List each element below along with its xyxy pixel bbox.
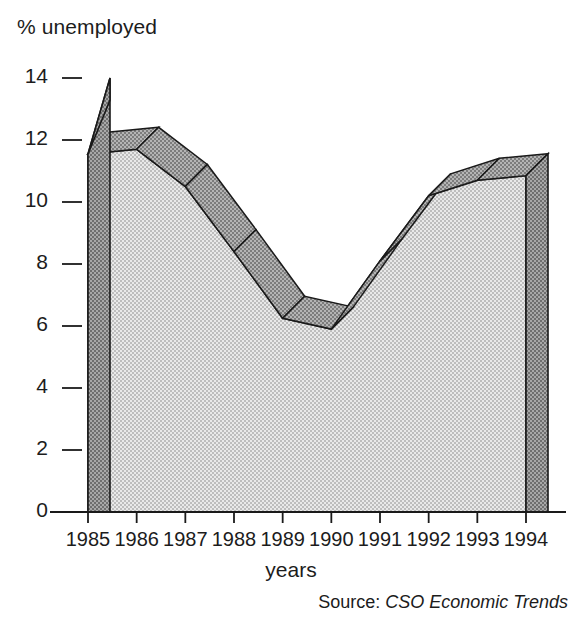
chart-geometry <box>88 78 548 512</box>
area-right-end-wall <box>526 154 548 512</box>
chart-plot-area <box>0 0 582 627</box>
unemployment-area-chart: % unemployed 02468101214 198519861987198… <box>0 0 582 627</box>
area-front-face <box>88 149 526 512</box>
